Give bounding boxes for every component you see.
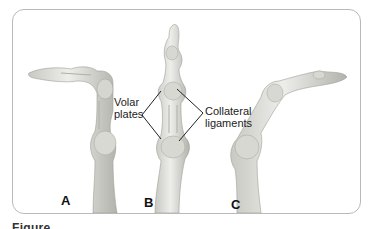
finger-b — [142, 24, 203, 213]
finger-a — [28, 67, 117, 213]
figure-frame: Volar plates Collateral ligaments A B C — [12, 9, 361, 214]
panel-label-a: A — [61, 193, 70, 208]
finger-anatomy-illustration — [13, 10, 360, 213]
finger-c — [231, 71, 347, 213]
figure-caption: Figure — [12, 221, 50, 229]
panel-label-b: B — [144, 195, 153, 210]
volar-plates-pointer — [142, 91, 161, 139]
volar-plates-label: Volar plates — [114, 96, 143, 120]
collateral-ligaments-label: Collateral ligaments — [205, 105, 252, 129]
panel-label-c: C — [231, 197, 240, 212]
